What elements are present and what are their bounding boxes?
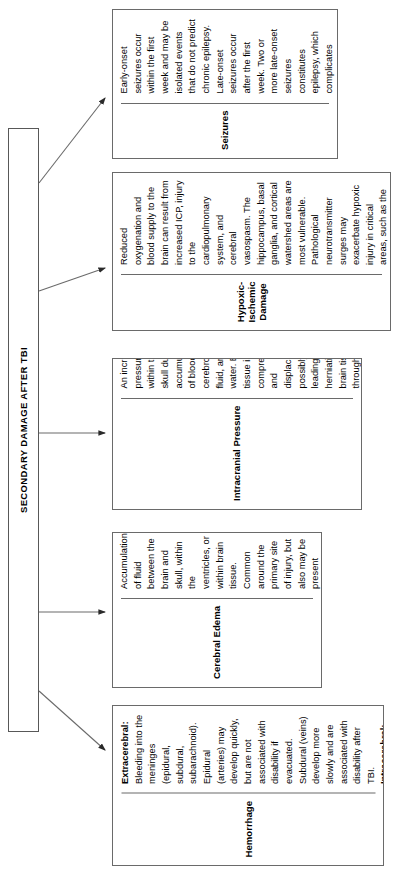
node-cerebral-edema-content: Cerebral Edema Accumulation of fluid bet… xyxy=(112,532,322,688)
node-cerebral-edema-body: Accumulation of fluid between the brain … xyxy=(112,532,322,598)
node-intracranial-pressure-content: Intracranial Pressure An increase of pre… xyxy=(112,358,362,510)
node-intracranial-pressure-title: Intracranial Pressure xyxy=(112,399,362,510)
diagram-canvas: SECONDARY DAMAGE AFTER TBI Seizures Earl… xyxy=(0,0,403,872)
connector-root-to-hypoxic-ischemic-damage xyxy=(39,268,105,291)
node-hemorrhage-body: Extracerebral: Bleeding into the meninge… xyxy=(112,705,384,792)
node-hypoxic-ischemic-damage: Hypoxic-Ischemic Damage Reduced oxygenat… xyxy=(112,172,391,331)
node-seizures-divider xyxy=(121,103,329,104)
node-hemorrhage-title: Hemorrhage xyxy=(112,793,384,866)
node-seizures-content: Seizures Early-onset seizures occur with… xyxy=(112,9,338,159)
node-seizures-body: Early-onset seizures occur within the fi… xyxy=(112,9,338,103)
node-hypoxic-ischemic-damage-body: Reduced oxygenation and blood supply to … xyxy=(112,172,391,274)
node-hypoxic-ischemic-damage-divider xyxy=(121,274,382,275)
node-cerebral-edema-title: Cerebral Edema xyxy=(112,599,322,688)
node-cerebral-edema-divider xyxy=(121,598,313,599)
node-intracranial-pressure: Intracranial Pressure An increase of pre… xyxy=(112,358,362,510)
connector-root-to-hemorrhage xyxy=(39,691,105,750)
node-seizures-title: Seizures xyxy=(112,104,338,159)
node-hypoxic-ischemic-damage-title: Hypoxic-Ischemic Damage xyxy=(112,275,391,331)
root-node-label: SECONDARY DAMAGE AFTER TBI xyxy=(19,347,29,513)
root-node-secondary-damage-after-tbi: SECONDARY DAMAGE AFTER TBI xyxy=(8,128,39,732)
node-intracranial-pressure-divider xyxy=(121,398,353,399)
node-hemorrhage-content: Hemorrhage Extracerebral: Bleeding into … xyxy=(112,705,384,866)
node-cerebral-edema: Cerebral Edema Accumulation of fluid bet… xyxy=(112,532,322,688)
node-seizures: Seizures Early-onset seizures occur with… xyxy=(112,9,338,159)
node-intracranial-pressure-body: An increase of pressure within the skull… xyxy=(112,358,362,398)
node-hemorrhage: Hemorrhage Extracerebral: Bleeding into … xyxy=(112,705,384,866)
connector-root-to-seizures xyxy=(39,98,105,183)
node-hypoxic-ischemic-damage-content: Hypoxic-Ischemic Damage Reduced oxygenat… xyxy=(112,172,391,331)
